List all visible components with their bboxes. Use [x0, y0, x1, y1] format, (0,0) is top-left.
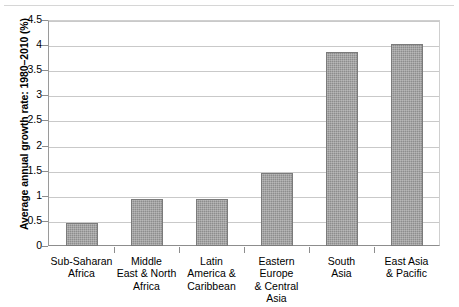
bar [391, 44, 423, 246]
bar-chart: Average annual growth rate: 1980–2010 (%… [0, 0, 459, 307]
y-axis-tick-mark [42, 246, 48, 247]
y-axis-tick-mark [42, 45, 48, 46]
x-axis-tick-label: Middle East & North Africa [114, 255, 179, 292]
y-axis-tick-label: 1 [8, 189, 42, 201]
x-axis-tick-mark [309, 247, 310, 253]
x-axis-tick-mark [179, 247, 180, 253]
bar [131, 199, 163, 246]
x-axis-tick-mark [374, 247, 375, 253]
y-axis-tick-label: 3.5 [8, 63, 42, 75]
x-axis-tick-label: South Asia [309, 255, 374, 280]
x-axis-tick-mark [114, 247, 115, 253]
y-axis-tick-mark [42, 146, 48, 147]
y-axis-tick-label: 1.5 [8, 164, 42, 176]
x-axis-tick-label: East Asia & Pacific [374, 255, 439, 280]
y-axis-tick-label: 0.5 [8, 214, 42, 226]
y-axis-tick-label: 2 [8, 139, 42, 151]
y-axis-tick-mark [42, 70, 48, 71]
top-scan-rule [4, 5, 454, 6]
bar [66, 223, 98, 246]
bar [196, 199, 228, 246]
y-axis-tick-mark [42, 171, 48, 172]
y-axis-tick-label: 4 [8, 38, 42, 50]
x-axis-tick-mark [244, 247, 245, 253]
bars-layer [49, 20, 439, 246]
y-axis-tick-mark [42, 221, 48, 222]
y-axis-tick-mark [42, 196, 48, 197]
y-axis-tick-label: 0 [8, 239, 42, 251]
x-axis-tick-label: Sub-Saharan Africa [49, 255, 114, 280]
y-axis-tick-mark [42, 95, 48, 96]
x-axis-tick-label: Eastern Europe & Central Asia [244, 255, 309, 305]
y-axis-tick-label: 2.5 [8, 113, 42, 125]
y-axis-tick-label: 4.5 [8, 13, 42, 25]
y-axis-tick-mark [42, 20, 48, 21]
bar [261, 173, 293, 246]
bar [326, 52, 358, 246]
y-axis-tick-label: 3 [8, 88, 42, 100]
x-axis-tick-label: Latin America & Caribbean [179, 255, 244, 292]
y-axis-tick-mark [42, 120, 48, 121]
